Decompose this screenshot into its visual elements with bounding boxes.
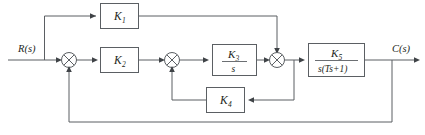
block-diagram-canvas: K 1 R(s) K 2 K 3 s K 5 s(Ts+1) (0, 0, 425, 135)
arrowhead-output (414, 57, 420, 63)
block-k2-subscript: 2 (122, 60, 126, 69)
arrowhead-into-k3 (203, 57, 209, 63)
block-k4-subscript: 4 (228, 100, 232, 109)
arrowhead-into-k1 (90, 13, 96, 19)
arrowhead-into-k2 (92, 57, 98, 63)
arrowhead-into-k5 (299, 57, 305, 63)
block-k1-subscript: 1 (122, 16, 126, 25)
input-signal-label: R(s) (17, 43, 36, 55)
arrowhead-into-k4 (248, 97, 254, 103)
output-signal-label: C(s) (392, 43, 411, 55)
wire-k4-to-sum2 (172, 71, 207, 100)
control-system-block-diagram: K 1 R(s) K 2 K 3 s K 5 s(Ts+1) (0, 0, 425, 135)
block-k5-denominator: s(Ts+1) (318, 64, 347, 75)
block-k3-denominator: s (232, 64, 236, 74)
